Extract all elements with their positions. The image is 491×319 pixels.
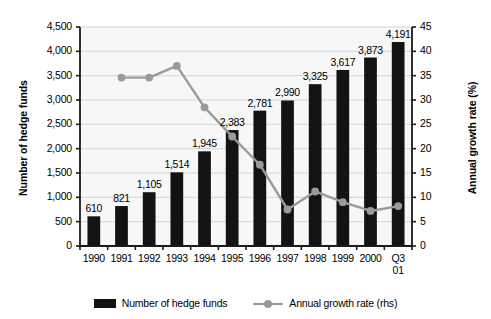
bar-1992 xyxy=(143,192,156,246)
bar-1999 xyxy=(336,70,349,246)
y-right-tick-5: 5 xyxy=(420,215,446,227)
bar-1997 xyxy=(281,100,294,246)
bar-1993 xyxy=(170,172,183,246)
line-point-1998 xyxy=(311,188,319,196)
bar-1998 xyxy=(309,84,322,246)
line-point-2000 xyxy=(367,207,375,215)
line-point-Q3-01 xyxy=(394,202,402,210)
bar-swatch-icon xyxy=(94,299,116,308)
y-right-tick-45: 45 xyxy=(420,20,446,32)
bar-label-Q3-01: 4,191 xyxy=(377,28,419,40)
bar-label-1999: 3,617 xyxy=(322,56,364,68)
line-point-1997 xyxy=(284,206,292,214)
bar-label-1997: 2,990 xyxy=(267,86,309,98)
line-point-1992 xyxy=(145,74,153,82)
y-left-tick-4000: 4,000 xyxy=(18,44,72,56)
y-left-tick-500: 500 xyxy=(18,215,72,227)
bar-2000 xyxy=(364,58,377,246)
y-left-tick-1500: 1,500 xyxy=(18,166,72,178)
bar-label-1990: 610 xyxy=(73,202,115,214)
y-right-tick-15: 15 xyxy=(420,166,446,178)
bar-label-1994: 1,945 xyxy=(184,137,226,149)
bar-1996 xyxy=(253,111,266,246)
bar-label-1993: 1,514 xyxy=(156,158,198,170)
y-left-tick-3000: 3,000 xyxy=(18,93,72,105)
y-left-tick-2000: 2,000 xyxy=(18,142,72,154)
chart-legend: Number of hedge funds Annual growth rate… xyxy=(0,297,491,309)
y-left-tick-3500: 3,500 xyxy=(18,69,72,81)
bar-Q3-01 xyxy=(392,42,405,246)
line-point-1991 xyxy=(118,74,126,82)
bar-label-1998: 3,325 xyxy=(294,70,336,82)
legend-label-line: Annual growth rate (rhs) xyxy=(289,297,397,309)
line-point-1995 xyxy=(228,133,236,141)
y-right-tick-30: 30 xyxy=(420,93,446,105)
bar-label-1995: 2,383 xyxy=(211,116,253,128)
y-right-tick-40: 40 xyxy=(420,44,446,56)
bar-label-1992: 1,105 xyxy=(128,178,170,190)
y-right-tick-25: 25 xyxy=(420,117,446,129)
bar-1991 xyxy=(115,206,128,246)
y-right-tick-20: 20 xyxy=(420,142,446,154)
line-marker-swatch-icon xyxy=(253,299,283,308)
y-right-tick-35: 35 xyxy=(420,69,446,81)
line-point-1999 xyxy=(339,198,347,206)
bar-1995 xyxy=(226,130,239,246)
x-tick-Q3-01: Q301 xyxy=(376,253,420,276)
bar-1994 xyxy=(198,151,211,246)
legend-item-line: Annual growth rate (rhs) xyxy=(253,297,397,309)
y-left-tick-1000: 1,000 xyxy=(18,190,72,202)
line-point-1996 xyxy=(256,161,264,169)
hedge-fund-chart: Number of hedge funds Annual growth rate… xyxy=(0,0,491,319)
y-right-tick-0: 0 xyxy=(420,239,446,251)
legend-item-bar: Number of hedge funds xyxy=(94,297,228,309)
line-point-1993 xyxy=(173,62,181,70)
line-point-1994 xyxy=(201,103,209,111)
bar-label-2000: 3,873 xyxy=(350,44,392,56)
bar-1990 xyxy=(87,216,100,246)
y-left-tick-0: 0 xyxy=(18,239,72,251)
legend-label-bar: Number of hedge funds xyxy=(122,297,228,309)
y-left-tick-2500: 2,500 xyxy=(18,117,72,129)
bar-label-1991: 821 xyxy=(101,192,143,204)
y-left-tick-4500: 4,500 xyxy=(18,20,72,32)
y-right-tick-10: 10 xyxy=(420,190,446,202)
